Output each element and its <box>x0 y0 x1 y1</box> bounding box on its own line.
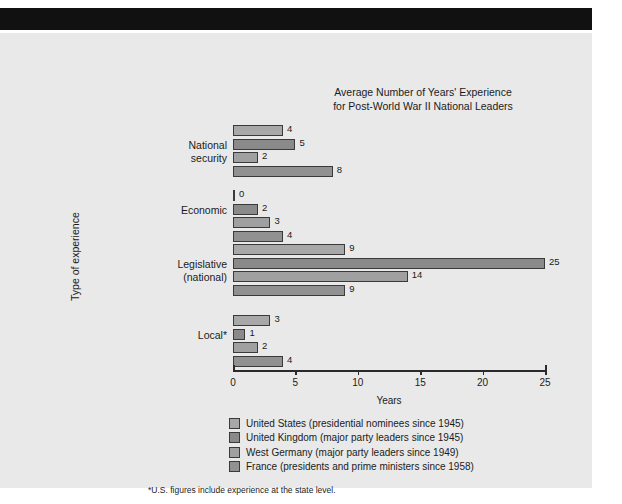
bar-value-label: 4 <box>287 229 292 240</box>
chart-legend: United States (presidential nominees sin… <box>229 416 529 474</box>
bar-value-label: 3 <box>274 313 279 324</box>
x-axis-tick-label: 25 <box>539 377 550 388</box>
legend-item-united-states: United States (presidential nominees sin… <box>229 416 529 431</box>
legend-item-france: France (presidents and prime ministers s… <box>229 460 529 475</box>
footnote-text: *U.S. figures include experience at the … <box>148 485 336 495</box>
bar-united-states-national-security <box>233 125 283 136</box>
x-axis-tick-label: 20 <box>477 377 488 388</box>
bar-value-label: 1 <box>249 327 254 338</box>
x-axis-tick <box>295 370 297 375</box>
x-axis-tick-label: 0 <box>230 377 236 388</box>
legend-swatch-icon <box>229 447 240 458</box>
bar-value-label: 3 <box>274 215 279 226</box>
x-axis-tick <box>233 365 235 371</box>
chart-panel: Average Number of Years' Experience for … <box>0 33 592 488</box>
legend-item-united-kingdom: United Kingdom (major party leaders sinc… <box>229 431 529 446</box>
y-axis-category-labels: Type of experience National security Eco… <box>105 125 227 370</box>
bar-united-kingdom-local <box>233 329 245 340</box>
legend-label: United Kingdom (major party leaders sinc… <box>246 432 463 443</box>
x-axis-tick <box>358 370 360 375</box>
bar-france-national-security <box>233 166 333 177</box>
chart-title-line-2: for Post-World War II National Leaders <box>283 100 563 114</box>
bar-value-label: 25 <box>549 256 560 267</box>
x-axis-line <box>233 370 545 372</box>
bar-value-label: 14 <box>412 269 423 280</box>
chart-title: Average Number of Years' Experience for … <box>283 86 563 113</box>
bar-france-economic <box>233 231 283 242</box>
x-axis-end-cap <box>545 365 547 371</box>
bar-value-label: 2 <box>262 340 267 351</box>
bar-united-kingdom-legislative-national <box>233 258 545 269</box>
x-axis-tick-label: 15 <box>415 377 426 388</box>
legend-label: United States (presidential nominees sin… <box>246 418 464 429</box>
bar-value-label: 4 <box>287 123 292 134</box>
bar-france-local <box>233 356 283 367</box>
x-axis-title: Years <box>233 395 545 406</box>
plot-area: 452802349251493124 <box>233 125 545 370</box>
bar-value-label: 5 <box>299 137 304 148</box>
legend-item-west-germany: West Germany (major party leaders since … <box>229 445 529 460</box>
y-category-line: Economic <box>107 204 227 217</box>
y-category-label-economic: Economic <box>107 204 227 217</box>
y-axis-title: Type of experience <box>69 212 81 301</box>
y-category-label-local: Local* <box>107 329 227 342</box>
x-axis-tick <box>420 370 422 375</box>
bar-value-label: 8 <box>337 164 342 175</box>
page-canvas: Average Number of Years' Experience for … <box>0 0 622 504</box>
bar-west-germany-national-security <box>233 152 258 163</box>
y-category-label-national-security: National security <box>107 139 227 164</box>
bar-value-label: 0 <box>239 188 244 199</box>
bar-value-label: 2 <box>262 202 267 213</box>
bar-united-kingdom-economic <box>233 204 258 215</box>
y-category-line: Legislative <box>107 258 227 271</box>
x-axis-tick-label: 5 <box>293 377 299 388</box>
legend-label: France (presidents and prime ministers s… <box>246 461 474 472</box>
legend-swatch-icon <box>229 418 240 429</box>
bar-value-label: 2 <box>262 150 267 161</box>
bar-united-kingdom-national-security <box>233 139 295 150</box>
x-axis-tick <box>483 370 485 375</box>
bar-united-states-economic <box>233 190 235 201</box>
bar-united-states-legislative-national <box>233 244 345 255</box>
bar-west-germany-legislative-national <box>233 271 408 282</box>
y-category-line: Local* <box>107 329 227 342</box>
bar-value-label: 9 <box>349 283 354 294</box>
legend-label: West Germany (major party leaders since … <box>246 447 459 458</box>
bar-west-germany-local <box>233 342 258 353</box>
chart-title-line-1: Average Number of Years' Experience <box>283 86 563 100</box>
masthead-bar <box>0 8 592 30</box>
legend-swatch-icon <box>229 461 240 472</box>
bar-united-states-local <box>233 315 270 326</box>
bar-west-germany-economic <box>233 217 270 228</box>
y-category-line: National <box>107 139 227 152</box>
bar-value-label: 9 <box>349 242 354 253</box>
legend-swatch-icon <box>229 432 240 443</box>
x-axis-tick-label: 10 <box>352 377 363 388</box>
y-category-label-legislative: Legislative (national) <box>107 258 227 283</box>
bar-value-label: 4 <box>287 354 292 365</box>
y-category-line: (national) <box>107 271 227 284</box>
y-category-line: security <box>107 152 227 165</box>
bar-france-legislative-national <box>233 285 345 296</box>
